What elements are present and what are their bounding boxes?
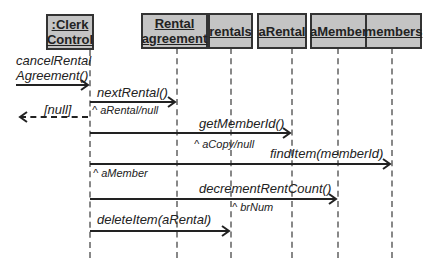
arrowheads [0, 0, 437, 262]
return-label-acopy-null: ^ aCopy/null [194, 138, 254, 151]
label-line: cancelRental [16, 53, 91, 68]
return-label-brnum: ^ brNum [232, 201, 273, 214]
message-label-cancel-rental-agreement: cancelRental Agreement() [16, 53, 91, 83]
message-label-get-member-id: getMemberId() [199, 116, 284, 131]
message-label-delete-item: deleteItem(aRental) [97, 212, 211, 227]
return-label-amember: ^ aMember [93, 167, 148, 180]
arrowhead-icon [168, 97, 175, 107]
return-label-arental-null: ^ aRental/null [92, 104, 158, 117]
message-label-decrement-rent-count: decrementRentCount() [199, 181, 331, 196]
message-label-next-rental: nextRental() [97, 85, 168, 100]
arrowhead-icon [383, 159, 390, 169]
message-label-find-item: findItem(memberId) [270, 146, 383, 161]
arrowhead-icon [222, 226, 229, 236]
label-line: Agreement() [16, 68, 91, 83]
arrowhead-icon [20, 112, 27, 122]
return-label-null: [null] [44, 102, 71, 117]
